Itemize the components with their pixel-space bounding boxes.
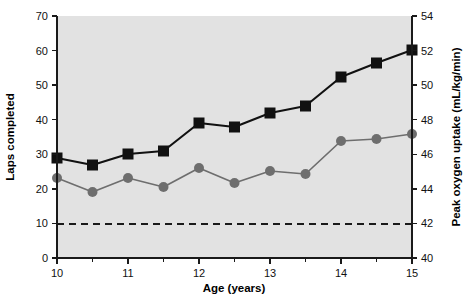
y-axis-left-tick-label: 30: [36, 148, 48, 160]
laps-marker: [194, 118, 205, 129]
laps-marker: [300, 101, 311, 112]
x-axis-tick-label: 12: [193, 267, 205, 279]
y-axis-left-tick-label: 60: [36, 45, 48, 57]
y-axis-right-title: Peak oxygen uptake (mL/kg/min): [450, 47, 462, 226]
vo2-marker: [123, 173, 133, 183]
vo2-marker: [372, 134, 382, 144]
y-axis-right-tick-label: 54: [421, 10, 433, 22]
vo2-marker: [159, 182, 169, 192]
y-axis-left-ticks: 010203040506070: [36, 10, 57, 264]
y-axis-left-tick-label: 0: [42, 252, 48, 264]
y-axis-right-tick-label: 40: [421, 252, 433, 264]
y-axis-left-tick-label: 20: [36, 183, 48, 195]
laps-marker: [158, 146, 169, 157]
y-axis-left-tick-label: 10: [36, 217, 48, 229]
vo2-marker: [88, 187, 98, 197]
x-axis-tick-label: 15: [406, 267, 418, 279]
vo2-marker: [230, 178, 240, 188]
laps-marker: [123, 149, 134, 160]
chart-container: 010203040506070 4042444648505254 1011121…: [0, 0, 469, 301]
laps-marker: [87, 160, 98, 171]
x-axis-tick-label: 14: [335, 267, 347, 279]
vo2-marker: [301, 169, 311, 179]
y-axis-left-tick-label: 40: [36, 114, 48, 126]
y-axis-right-tick-label: 42: [421, 217, 433, 229]
laps-marker: [336, 72, 347, 83]
y-axis-right-tick-label: 44: [421, 183, 433, 195]
y-axis-right-tick-label: 50: [421, 79, 433, 91]
laps-marker: [229, 122, 240, 133]
vo2-marker: [194, 163, 204, 173]
y-axis-left-tick-label: 50: [36, 79, 48, 91]
plot-area-background: [57, 16, 412, 258]
y-axis-right-tick-label: 46: [421, 148, 433, 160]
y-axis-right-tick-label: 52: [421, 45, 433, 57]
laps-marker: [265, 108, 276, 119]
x-axis-tick-label: 11: [122, 267, 133, 279]
vo2-marker: [265, 166, 275, 176]
y-axis-left-title: Laps completed: [4, 93, 16, 181]
x-axis-tick-label: 13: [264, 267, 276, 279]
x-axis-title: Age (years): [203, 282, 266, 294]
y-axis-left-tick-label: 70: [36, 10, 48, 22]
dual-axis-line-chart: 010203040506070 4042444648505254 1011121…: [0, 0, 469, 301]
vo2-marker: [336, 136, 346, 146]
x-axis-tick-label: 10: [51, 267, 63, 279]
laps-marker: [371, 58, 382, 69]
y-axis-right-tick-label: 48: [421, 114, 433, 126]
